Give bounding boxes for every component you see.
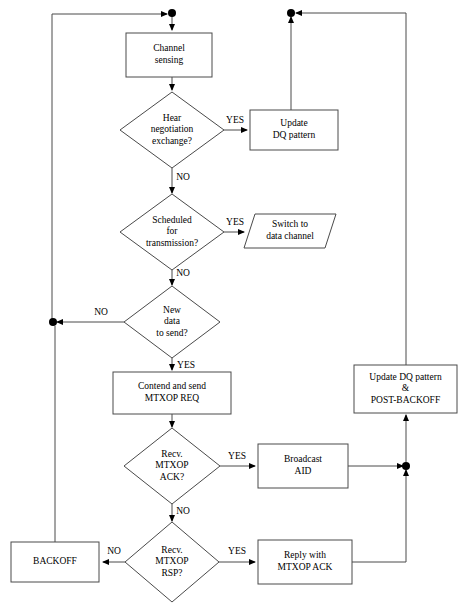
node-label-line: POST-BACKOFF [371, 395, 440, 405]
node-label-line: Switch to [272, 219, 308, 229]
node-label-line: Contend and send [138, 381, 206, 391]
node-label-line: Broadcast [284, 454, 322, 464]
node-label-line: BACKOFF [33, 556, 77, 566]
node-label-line: Recv. [161, 545, 182, 555]
node-switch-to-data-channel: Switch todata channel [244, 214, 336, 248]
node-label-line: transmission? [146, 238, 198, 248]
junction-top-left [168, 9, 176, 17]
edge-label-recv-rsp-no-to-backoff: NO [107, 546, 121, 556]
node-channel-sensing: Channelsensing [126, 33, 212, 77]
node-label-line: Reply with [284, 550, 326, 560]
node-update-dq-pattern: UpdateDQ pattern [250, 110, 338, 150]
edge-label-recv-ack-yes-to-broadcast: YES [228, 451, 246, 461]
node-label-line: exchange? [152, 136, 192, 146]
node-label-line: to send? [156, 328, 187, 338]
node-label-line: RSP? [161, 568, 182, 578]
node-label-line: Update DQ pattern [369, 372, 442, 382]
node-label-line: MTXOP REQ [145, 393, 199, 403]
node-reply-with-mtxop-ack: Reply withMTXOP ACK [258, 540, 352, 584]
node-scheduled-for-transmission: Scheduledfortransmission? [120, 194, 224, 270]
connector-reply-to-right-rail-up [352, 470, 406, 562]
node-label-line: sensing [155, 55, 184, 65]
node-label-line: negotiation [151, 124, 194, 134]
junction-left-rail [49, 318, 57, 326]
node-label-line: Recv. [161, 449, 182, 459]
edge-label-scheduled-yes-to-switch: YES [226, 217, 244, 227]
node-label-line: data [164, 316, 181, 326]
node-label-line: AID [295, 466, 312, 476]
node-label-line: ACK? [160, 472, 184, 482]
node-recv-mtxop-ack: Recv.MTXOPACK? [124, 428, 220, 504]
flowchart-canvas: ChannelsensingHearnegotiationexchange?Up… [0, 0, 462, 615]
node-label-line: for [166, 226, 178, 236]
node-label-line: Channel [153, 43, 185, 53]
node-label-line: Hear [163, 113, 182, 123]
node-backoff: BACKOFF [11, 542, 99, 582]
edge-label-newdata-no-to-left-rail: NO [94, 307, 108, 317]
node-label-line: Scheduled [152, 215, 192, 225]
node-label-line: MTXOP [155, 460, 188, 470]
node-label-line: MTXOP [155, 556, 188, 566]
node-label-line: New [163, 305, 181, 315]
node-label-line: Update [280, 118, 307, 128]
node-new-data-to-send: Newdatato send? [124, 286, 220, 358]
node-update-dq-postbackoff: Update DQ pattern&POST-BACKOFF [354, 365, 457, 413]
node-recv-mtxop-rsp: Recv.MTXOPRSP? [125, 522, 219, 602]
node-label-line: & [402, 383, 410, 393]
edge-label-hear-yes-to-update-dq: YES [226, 115, 244, 125]
node-label-line: DQ pattern [273, 130, 316, 140]
connector-postbackoff-up-to-top [296, 13, 406, 365]
junction-top-right [287, 9, 295, 17]
edge-label-hear-no-to-scheduled: NO [176, 172, 190, 182]
node-contend-and-send: Contend and sendMTXOP REQ [113, 372, 231, 414]
connector-layer [52, 13, 406, 562]
edge-label-recv-rsp-yes-to-reply: YES [228, 546, 246, 556]
flowchart-diagram: ChannelsensingHearnegotiationexchange?Up… [0, 0, 462, 615]
node-hear-negotiation: Hearnegotiationexchange? [120, 92, 224, 168]
junction-right-rail [402, 462, 410, 470]
node-label-line: data channel [266, 231, 314, 241]
edge-label-recv-ack-no-to-recv-rsp: NO [176, 506, 190, 516]
node-label-line: MTXOP ACK [278, 562, 333, 572]
edge-label-scheduled-no-to-newdata: NO [176, 268, 190, 278]
edge-label-newdata-yes-to-contend: YES [177, 360, 195, 370]
node-broadcast-aid: BroadcastAID [258, 444, 348, 488]
